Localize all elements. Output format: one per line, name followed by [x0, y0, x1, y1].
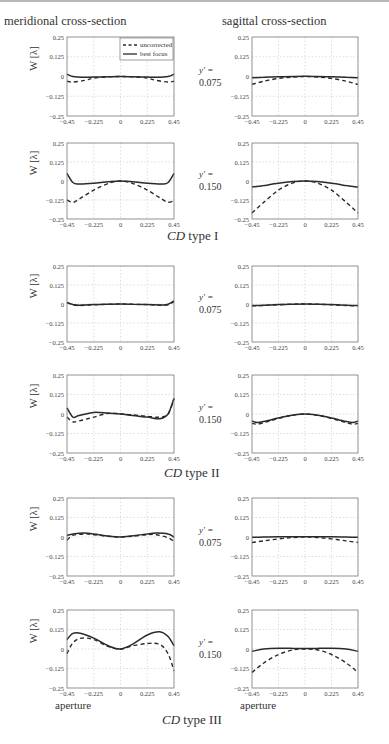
- plot-panel-2: 0.250.1250−0.125−0.25−0.45−0.22500.2250.…: [231, 34, 364, 126]
- svg-text:0.150: 0.150: [199, 181, 222, 192]
- caption-italic: CD: [167, 228, 185, 243]
- y-tick-label: 0.125: [234, 514, 249, 521]
- y-tick-label: 0.125: [234, 159, 249, 166]
- x-axis-label: aperture: [55, 699, 91, 711]
- plot-panel-5: 0.250.1250−0.125−0.25−0.45−0.22500.2250.…: [28, 263, 222, 352]
- x-tick-label: 0: [119, 690, 122, 697]
- x-tick-label: −0.45: [244, 455, 259, 462]
- x-tick-label: 0.45: [168, 578, 179, 585]
- y-tick-label: −0.125: [46, 93, 64, 100]
- y-tick-label: −0.125: [231, 430, 249, 437]
- svg-text:y′ =: y′ =: [198, 525, 213, 535]
- uncorrected-curve: [252, 414, 358, 424]
- x-tick-label: −0.225: [269, 118, 287, 125]
- svg-text:y′ =: y′ =: [198, 65, 213, 75]
- plot-panel-12: 0.250.1250−0.125−0.25−0.45−0.22500.2250.…: [231, 607, 364, 712]
- y-axis-label: W [λ]: [28, 46, 39, 70]
- yprime-annotation: y′ =0.075: [198, 65, 222, 88]
- svg-text:y′ =: y′ =: [198, 169, 213, 179]
- svg-text:0.075: 0.075: [199, 537, 222, 548]
- x-tick-label: −0.225: [269, 690, 287, 697]
- x-tick-label: 0.225: [324, 221, 339, 228]
- y-tick-label: 0: [61, 178, 64, 185]
- y-tick-label: 0.25: [53, 372, 64, 379]
- x-tick-label: 0: [119, 578, 122, 585]
- yprime-annotation: y′ =0.150: [198, 169, 222, 192]
- plot-panel-9: 0.250.1250−0.125−0.25−0.45−0.22500.2250.…: [28, 495, 222, 586]
- best-focus-curve: [252, 76, 358, 78]
- x-tick-label: −0.225: [269, 344, 287, 351]
- x-tick-label: 0.225: [140, 221, 155, 228]
- x-tick-label: 0.45: [352, 221, 363, 228]
- plot-panel-10: 0.250.1250−0.125−0.25−0.45−0.22500.2250.…: [231, 495, 364, 586]
- y-tick-label: 0.125: [234, 53, 249, 60]
- x-tick-label: −0.225: [269, 578, 287, 585]
- y-tick-label: 0.125: [49, 626, 64, 633]
- x-tick-label: 0: [303, 455, 306, 462]
- x-tick-label: 0.225: [324, 690, 339, 697]
- caption-text: type I: [185, 228, 218, 243]
- svg-text:0.150: 0.150: [199, 649, 222, 660]
- plot-panel-1: 0.250.1250−0.125−0.25−0.45−0.22500.2250.…: [28, 34, 222, 126]
- x-tick-label: −0.45: [59, 221, 74, 228]
- y-tick-label: 0.125: [49, 282, 64, 289]
- y-tick-label: 0.25: [53, 140, 64, 147]
- y-axis-label: W [λ]: [28, 384, 39, 408]
- x-tick-label: 0: [119, 455, 122, 462]
- y-tick-label: 0.125: [49, 53, 64, 60]
- y-tick-label: −0.125: [231, 553, 249, 560]
- y-tick-label: 0: [61, 534, 64, 541]
- y-axis-label: W [λ]: [28, 619, 39, 643]
- y-axis-label: W [λ]: [28, 151, 39, 175]
- y-tick-label: 0: [246, 411, 249, 418]
- y-tick-label: 0.125: [49, 159, 64, 166]
- svg-text:0.075: 0.075: [199, 304, 222, 315]
- x-tick-label: 0.45: [168, 344, 179, 351]
- legend-uncorrected-label: uncorrected: [140, 41, 173, 48]
- caption-text: type II: [182, 465, 220, 480]
- x-tick-label: −0.45: [59, 690, 74, 697]
- x-tick-label: 0.225: [140, 690, 155, 697]
- x-tick-label: −0.225: [85, 690, 103, 697]
- yprime-annotation: y′ =0.075: [198, 292, 222, 315]
- caption-italic: CD: [164, 465, 182, 480]
- best-focus-curve: [252, 537, 358, 538]
- x-tick-label: 0.45: [168, 118, 179, 125]
- x-tick-label: 0.45: [352, 578, 363, 585]
- x-tick-label: 0.45: [352, 455, 363, 462]
- y-tick-label: 0.25: [238, 495, 249, 502]
- plot-panel-8: 0.250.1250−0.125−0.25−0.45−0.22500.2250.…: [231, 372, 364, 463]
- x-tick-label: 0: [303, 118, 306, 125]
- y-axis-label: W [λ]: [28, 274, 39, 298]
- x-tick-label: 0.225: [140, 578, 155, 585]
- y-tick-label: 0.125: [49, 514, 64, 521]
- plot-panel-11: 0.250.1250−0.125−0.25−0.45−0.22500.2250.…: [28, 607, 222, 712]
- x-tick-label: −0.225: [85, 118, 103, 125]
- x-tick-label: 0.45: [352, 118, 363, 125]
- x-tick-label: 0.225: [324, 344, 339, 351]
- best-focus-curve: [67, 398, 174, 418]
- svg-text:0.075: 0.075: [199, 77, 222, 88]
- plot-panel-7: 0.250.1250−0.125−0.25−0.45−0.22500.2250.…: [28, 372, 222, 463]
- x-tick-label: 0: [119, 344, 122, 351]
- x-tick-label: 0: [303, 344, 306, 351]
- y-tick-label: 0.125: [49, 391, 64, 398]
- y-tick-label: 0.25: [238, 263, 249, 270]
- svg-text:y′ =: y′ =: [198, 637, 213, 647]
- y-tick-label: −0.125: [231, 665, 249, 672]
- x-tick-label: 0.45: [168, 690, 179, 697]
- y-tick-label: 0: [246, 73, 249, 80]
- yprime-annotation: y′ =0.150: [198, 637, 222, 660]
- y-tick-label: 0: [61, 301, 64, 308]
- y-tick-label: 0.25: [53, 34, 64, 41]
- x-tick-label: 0.45: [352, 690, 363, 697]
- plot-panel-6: 0.250.1250−0.125−0.25−0.45−0.22500.2250.…: [231, 263, 364, 352]
- yprime-annotation: y′ =0.150: [198, 402, 222, 425]
- x-tick-label: −0.45: [59, 578, 74, 585]
- x-tick-label: −0.225: [85, 344, 103, 351]
- x-tick-label: 0.225: [324, 455, 339, 462]
- caption-cd-type-1: CD type I: [167, 228, 218, 244]
- y-tick-label: 0.125: [234, 626, 249, 633]
- y-tick-label: 0.25: [238, 34, 249, 41]
- legend: uncorrectedbest focus: [120, 38, 173, 60]
